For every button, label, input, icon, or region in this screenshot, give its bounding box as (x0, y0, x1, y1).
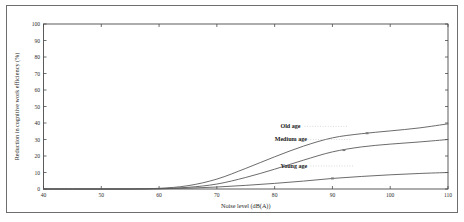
data-curves (44, 124, 449, 189)
data-marker (343, 149, 346, 151)
y-tick-label: 20 (35, 153, 41, 159)
x-axis-title: Noise level (dB(A)) (221, 202, 271, 210)
y-tick-label: 70 (35, 71, 41, 77)
series-label-medium-age: Medium age (275, 136, 308, 142)
x-tick-label: 50 (98, 192, 104, 198)
series-label-young-age: Young age (280, 163, 307, 169)
y-axis-title: Reduction in cognitive work efficiency (… (13, 53, 21, 161)
y-tick-label: 90 (35, 38, 41, 44)
data-marker (331, 177, 334, 179)
chart-svg: 405060708090100110 010203040506070809010… (0, 0, 464, 222)
x-tick-label: 80 (272, 192, 278, 198)
plot-area: 405060708090100110 010203040506070809010… (0, 0, 464, 222)
x-tick-label: 100 (386, 192, 395, 198)
x-tick-label: 110 (444, 192, 452, 198)
y-tick-labels: 0102030405060708090100 (32, 21, 41, 192)
x-tick-label: 90 (330, 192, 336, 198)
x-tick-label: 60 (156, 192, 162, 198)
curve-young-age (44, 173, 449, 190)
x-tick-label: 70 (214, 192, 220, 198)
y-tick-label: 80 (35, 54, 41, 60)
plot-frame (44, 24, 449, 189)
y-tick-label: 0 (37, 186, 40, 192)
axes-group (44, 24, 449, 189)
data-marker (366, 132, 369, 134)
x-tick-labels: 405060708090100110 (41, 192, 453, 198)
series-label-old-age: Old age (280, 123, 300, 129)
y-tick-label: 30 (35, 137, 41, 143)
y-tick-label: 40 (35, 120, 41, 126)
curve-old-age (44, 124, 449, 189)
y-tick-label: 50 (35, 104, 41, 110)
y-tick-label: 10 (35, 170, 41, 176)
y-tick-label: 60 (35, 87, 41, 93)
x-tick-label: 40 (41, 192, 47, 198)
y-tick-label: 100 (32, 21, 41, 27)
axis-ticks (44, 24, 449, 189)
figure-container: 405060708090100110 010203040506070809010… (0, 0, 464, 222)
curve-medium-age (44, 140, 449, 190)
series-labels: Old ageMedium ageYoung age (275, 123, 354, 169)
